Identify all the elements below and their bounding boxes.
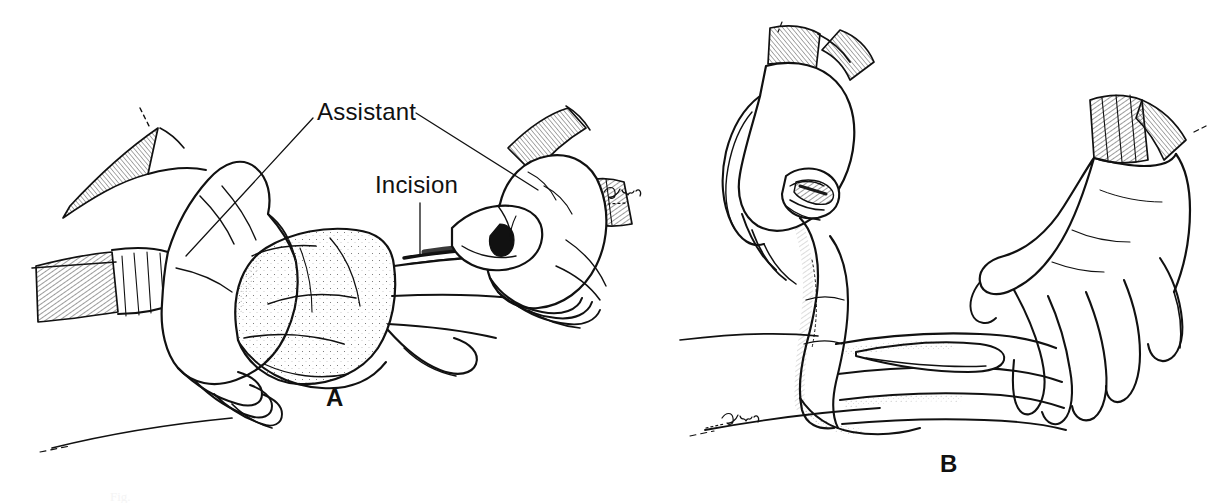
label-assistant: Assistant (317, 98, 416, 126)
label-incision: Incision (375, 171, 458, 199)
figure-root: Assistant Incision A B Fig. (0, 0, 1225, 503)
panel-letter-b: B (940, 450, 957, 478)
illustration-canvas (0, 0, 1225, 503)
caption-fragment: Fig. (110, 489, 630, 503)
panel-b-artwork (680, 22, 1206, 436)
panel-letter-a: A (326, 384, 343, 412)
